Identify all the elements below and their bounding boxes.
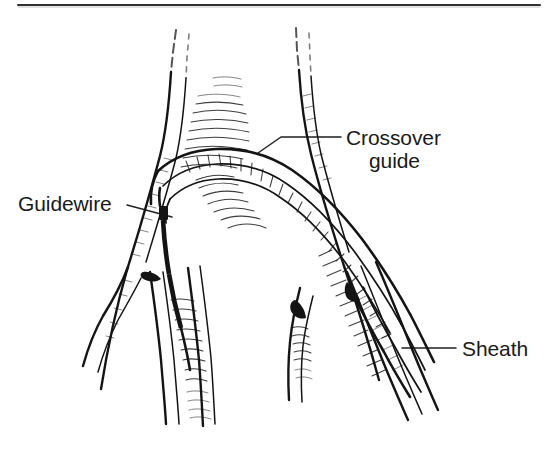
guidewire-marker — [159, 206, 168, 220]
illustration-canvas: Crossover guide Guidewire Sheath — [0, 0, 545, 450]
figure-container: Crossover guide Guidewire Sheath — [0, 0, 545, 450]
top-rule — [18, 5, 540, 7]
vessel-origin-shading — [141, 272, 312, 379]
leader-line-crossover-guide — [258, 137, 341, 153]
label-sheath: Sheath — [462, 337, 528, 360]
aorta-lumen-hatching — [181, 102, 249, 168]
crossover-guide-catheter — [151, 149, 434, 370]
left-iliac-artery — [83, 266, 215, 426]
catheter-inner-shading — [196, 175, 266, 228]
left-iliac-hatching-lower — [187, 391, 211, 419]
aorta-lumen-hatching-faint — [198, 77, 242, 97]
label-guidewire: Guidewire — [18, 192, 112, 215]
label-crossover-guide-line2: guide — [369, 149, 420, 172]
right-iliac-artery — [288, 262, 438, 420]
label-crossover-guide-line1: Crossover — [346, 126, 441, 149]
